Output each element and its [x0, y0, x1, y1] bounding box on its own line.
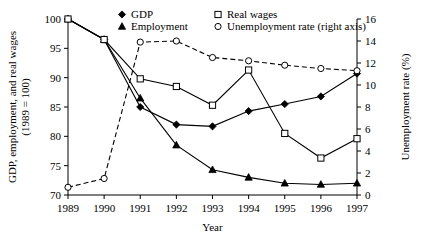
datapoint-real-wages-1989 — [65, 16, 71, 22]
x-ticklabel-1991: 1991 — [129, 202, 151, 214]
series-line-real-wages — [68, 19, 357, 158]
datapoint-unemployment-rate-right-axis-1995 — [282, 62, 288, 68]
y-ticklabel-left-80: 80 — [50, 130, 62, 142]
y-ticklabel-right-10: 10 — [365, 79, 377, 91]
y-ticklabel-left-70: 70 — [50, 189, 62, 201]
datapoint-real-wages-1994 — [246, 67, 252, 73]
legend-marker-gdp — [118, 11, 125, 18]
y-ticklabel-right-6: 6 — [365, 123, 371, 135]
datapoint-gdp-1992 — [173, 121, 180, 128]
x-ticklabel-1993: 1993 — [202, 202, 225, 214]
datapoint-employment-1993 — [209, 166, 216, 173]
datapoint-real-wages-1996 — [318, 155, 324, 161]
datapoint-unemployment-rate-right-axis-1997 — [354, 68, 360, 74]
datapoint-unemployment-rate-right-axis-1990 — [101, 175, 107, 181]
x-ticklabel-1990: 1990 — [93, 202, 116, 214]
datapoint-real-wages-1993 — [209, 102, 215, 108]
datapoint-gdp-1993 — [209, 123, 216, 130]
y-ticklabel-left-90: 90 — [50, 72, 62, 84]
y-ticklabel-left-100: 100 — [45, 13, 62, 25]
y-axis-label-left-line2: (1989 = 100) — [19, 78, 32, 136]
y-ticklabel-right-8: 8 — [365, 101, 371, 113]
datapoint-gdp-1994 — [245, 108, 252, 115]
y-axis-label-left-line1: GDP, employment, and real wages — [6, 31, 18, 183]
datapoint-real-wages-1992 — [173, 83, 179, 89]
y-ticklabel-right-16: 16 — [365, 13, 377, 25]
legend-marker-unemployment-rate-right-axis — [215, 23, 221, 29]
x-axis-label: Year — [202, 221, 223, 233]
legend-label-employment: Employment — [131, 20, 188, 32]
legend-label-gdp: GDP — [131, 8, 153, 20]
x-ticklabel-1997: 1997 — [346, 202, 369, 214]
x-ticklabel-1994: 1994 — [238, 202, 261, 214]
y-ticklabel-right-14: 14 — [365, 35, 377, 47]
legend-label-unemployment-rate-right-axis: Unemployment rate (right axis) — [227, 20, 366, 33]
datapoint-unemployment-rate-right-axis-1992 — [173, 38, 179, 44]
x-ticklabel-1996: 1996 — [310, 202, 333, 214]
datapoint-real-wages-1991 — [137, 76, 143, 82]
x-ticklabel-1995: 1995 — [274, 202, 297, 214]
datapoint-unemployment-rate-right-axis-1993 — [209, 54, 215, 60]
y-axis-label-right: Unemployment rate (%) — [399, 53, 412, 160]
datapoint-unemployment-rate-right-axis-1989 — [65, 184, 71, 190]
x-ticklabel-1989: 1989 — [57, 202, 80, 214]
y-ticklabel-left-95: 95 — [50, 42, 62, 54]
datapoint-gdp-1995 — [281, 100, 288, 107]
chart-figure: 7075808590951000246810121416198919901991… — [0, 0, 425, 241]
datapoint-real-wages-1990 — [101, 36, 107, 42]
datapoint-gdp-1991 — [137, 103, 144, 110]
datapoint-real-wages-1995 — [282, 130, 288, 136]
datapoint-unemployment-rate-right-axis-1996 — [318, 65, 324, 71]
y-ticklabel-right-0: 0 — [365, 189, 371, 201]
datapoint-employment-1991 — [137, 94, 144, 101]
legend-marker-employment — [118, 23, 125, 30]
y-ticklabel-left-75: 75 — [50, 160, 62, 172]
legend-label-real-wages: Real wages — [227, 8, 277, 20]
x-ticklabel-1992: 1992 — [165, 202, 187, 214]
datapoint-unemployment-rate-right-axis-1994 — [246, 58, 252, 64]
y-ticklabel-right-12: 12 — [365, 57, 376, 69]
y-ticklabel-right-2: 2 — [365, 167, 371, 179]
datapoint-employment-1997 — [353, 179, 360, 186]
series-line-gdp — [68, 19, 357, 126]
datapoint-gdp-1996 — [317, 93, 324, 100]
chart-canvas: 7075808590951000246810121416198919901991… — [0, 0, 425, 241]
legend-marker-real-wages — [215, 11, 221, 17]
datapoint-real-wages-1997 — [354, 136, 360, 142]
y-ticklabel-left-85: 85 — [50, 101, 62, 113]
datapoint-unemployment-rate-right-axis-1991 — [137, 39, 143, 45]
y-ticklabel-right-4: 4 — [365, 145, 371, 157]
